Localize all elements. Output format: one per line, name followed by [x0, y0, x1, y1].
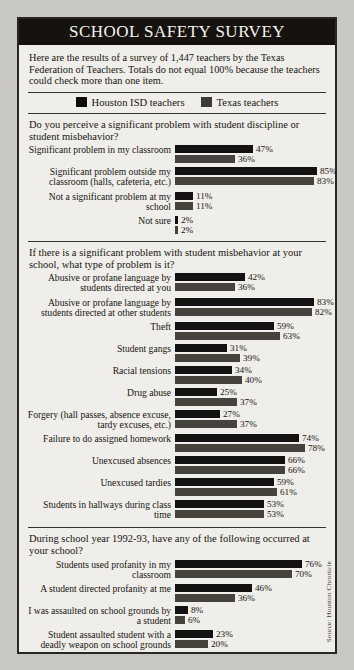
bar-texas	[175, 202, 193, 210]
section-rows: Significant problem in my classroom47%36…	[27, 144, 327, 238]
bar-texas	[175, 616, 185, 624]
chart-row-label: A student directed profanity at me	[27, 583, 175, 594]
infographic-body: Here are the results of a survey of 1,44…	[19, 45, 335, 654]
chart-row: Racial tensions34%40%	[27, 365, 327, 384]
bar-line: 83%	[175, 177, 337, 185]
bar-line: 36%	[175, 594, 327, 602]
chart-row-label: Student assaulted student on school grou…	[27, 653, 175, 654]
infographic-page: SCHOOL SAFETY SURVEY Here are the result…	[0, 0, 354, 670]
chart-row: Significant problem outside my classroom…	[27, 166, 327, 187]
bar-texas	[175, 570, 292, 578]
bar-line: 2%	[175, 226, 327, 234]
chart-row: Significant problem in my classroom47%36…	[27, 144, 327, 163]
bar-texas	[175, 398, 237, 406]
chart-row: Not a significant problem at my school11…	[27, 191, 327, 212]
bar-value-label: 2%	[181, 216, 193, 224]
chart-row: Students in hallways during class time53…	[27, 499, 327, 520]
bar-line: 36%	[175, 155, 327, 163]
bar-value-label: 11%	[196, 202, 213, 210]
bar-line: 27%	[175, 410, 327, 418]
chart-row: Unexcused absences66%66%	[27, 455, 327, 474]
chart-row: Student assaulted student on school grou…	[27, 653, 327, 654]
legend-swatch-icon-texas	[201, 97, 212, 107]
divider-top	[28, 92, 326, 93]
chart-row-bars: 59%63%	[175, 321, 327, 340]
chart-row: Students used profanity in my classroom7…	[27, 559, 327, 580]
bar-value-label: 47%	[256, 145, 273, 153]
bar-houston	[175, 606, 188, 614]
chart-row: A student directed profanity at me46%36%	[27, 583, 327, 602]
bar-value-label: 37%	[240, 420, 257, 428]
bar-line: 25%	[175, 388, 327, 396]
chart-row: Student gangs31%39%	[27, 343, 327, 362]
sections-container: Do you perceive a significant problem wi…	[27, 116, 327, 654]
bar-texas	[175, 640, 208, 648]
chart-row: Drug abuse25%37%	[27, 387, 327, 406]
bar-line: 74%	[175, 434, 327, 442]
bar-texas	[175, 594, 235, 602]
bar-value-label: 70%	[295, 570, 312, 578]
bar-texas	[175, 283, 235, 291]
bar-houston	[175, 456, 285, 464]
chart-row-bars: 66%66%	[175, 455, 327, 474]
bar-line: 59%	[175, 322, 327, 330]
bar-value-label: 83%	[317, 298, 334, 306]
chart-row-bars: 27%37%	[175, 409, 327, 428]
legend-label-texas: Texas teachers	[217, 97, 279, 108]
section-rows: Students used profanity in my classroom7…	[27, 559, 327, 654]
chart-row-bars: 83%82%	[175, 297, 334, 316]
bar-texas	[175, 308, 312, 316]
bar-value-label: 20%	[211, 640, 228, 648]
bar-line: 8%	[175, 606, 327, 614]
bar-houston	[175, 192, 193, 200]
bar-line: 34%	[175, 366, 327, 374]
legend-item-texas: Texas teachers	[201, 97, 279, 108]
chart-row: Unexcused tardies59%61%	[27, 477, 327, 496]
bar-value-label: 53%	[267, 510, 284, 518]
bar-value-label: 8%	[191, 606, 203, 614]
bar-texas	[175, 155, 235, 163]
bar-value-label: 66%	[288, 466, 305, 474]
bar-houston	[175, 216, 178, 224]
bar-value-label: 46%	[255, 584, 272, 592]
bar-houston	[175, 434, 299, 442]
chart-row-bars: 25%37%	[175, 387, 327, 406]
chart-row: Failure to do assigned homework74%78%	[27, 433, 327, 452]
bar-value-label: 36%	[238, 594, 255, 602]
section-question: If there is a significant problem with s…	[27, 244, 327, 273]
chart-row-label: Abusive or profane language by students …	[27, 272, 175, 293]
bar-value-label: 63%	[283, 332, 300, 340]
chart-row: Forgery (hall passes, absence excuse, ta…	[27, 409, 327, 430]
chart-row: Theft59%63%	[27, 321, 327, 340]
intro-paragraph: Here are the results of a survey of 1,44…	[27, 49, 327, 90]
source-credit: Source: Houston Chronicle	[325, 561, 333, 642]
legend: Houston ISD teachers Texas teachers	[27, 95, 327, 111]
bar-line: 82%	[175, 308, 334, 316]
chart-row-bars: 47%36%	[175, 144, 327, 163]
bar-houston	[175, 366, 232, 374]
bar-value-label: 39%	[243, 354, 260, 362]
divider-legend	[28, 113, 326, 114]
chart-row-bars: 8%6%	[175, 605, 327, 624]
bar-value-label: 59%	[277, 478, 294, 486]
bar-value-label: 11%	[196, 192, 213, 200]
bar-value-label: 42%	[248, 273, 265, 281]
chart-row-label: Not sure	[27, 215, 175, 226]
legend-label-houston: Houston ISD teachers	[92, 97, 185, 108]
chart-row-bars: 53%53%	[175, 499, 327, 518]
bar-texas	[175, 466, 285, 474]
bar-line: 23%	[175, 630, 327, 638]
chart-row-label: Not a significant problem at my school	[27, 191, 175, 212]
bar-value-label: 31%	[230, 344, 247, 352]
bar-value-label: 25%	[220, 388, 237, 396]
bar-line: 11%	[175, 202, 327, 210]
chart-row-bars: 2%2%	[175, 215, 327, 234]
bar-value-label: 23%	[216, 630, 233, 638]
bar-line: 47%	[175, 145, 327, 153]
bar-value-label: 74%	[302, 434, 319, 442]
bar-line: 66%	[175, 466, 327, 474]
chart-row-label: Student assaulted student with a deadly …	[27, 629, 175, 650]
bar-line: 2%	[175, 216, 327, 224]
bar-texas	[175, 488, 277, 496]
bar-line: 63%	[175, 332, 327, 340]
